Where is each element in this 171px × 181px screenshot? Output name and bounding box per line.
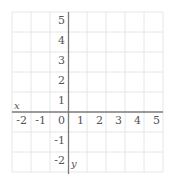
x-tick-labels: -2 -1 0 1 2 3 4 5 (16, 114, 160, 127)
x-axis-label: x (14, 100, 20, 111)
y-tick-label: 5 (58, 14, 65, 27)
y-tick-label: 3 (58, 54, 65, 67)
x-tick-label: 3 (115, 114, 122, 127)
y-tick-label: 4 (58, 34, 65, 47)
grid (12, 12, 163, 172)
x-tick-label: -1 (35, 114, 46, 127)
coordinate-plane: -2 -1 0 1 2 3 4 5 5 4 3 2 1 -1 -2 x y (0, 0, 171, 181)
x-tick-label: -2 (16, 114, 27, 127)
x-tick-label: 4 (134, 114, 141, 127)
x-tick-label: 1 (77, 114, 84, 127)
x-tick-label: 0 (58, 114, 65, 127)
y-tick-labels: 5 4 3 2 1 -1 -2 (54, 14, 65, 167)
y-tick-label: 1 (58, 94, 65, 107)
x-tick-label: 2 (96, 114, 103, 127)
y-axis-label: y (70, 158, 77, 169)
y-tick-label: -1 (54, 134, 65, 147)
y-tick-label: -2 (54, 154, 65, 167)
y-tick-label: 2 (58, 74, 65, 87)
x-tick-label: 5 (153, 114, 160, 127)
